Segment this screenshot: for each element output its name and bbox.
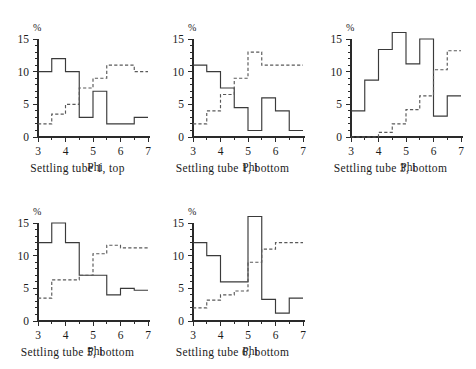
panel-caption: Settling tube 1, bottom [155,162,310,174]
y-tick-label: 5 [23,98,29,110]
x-tick-label: 3 [35,329,41,341]
panel-caption: Settling tube 3, bottom [313,162,468,174]
y-tick-label: 10 [173,66,185,78]
x-tick-label: 4 [376,145,382,157]
x-tick-label: 6 [273,329,279,341]
x-tick-label: 7 [145,329,151,341]
y-tick-label: 5 [178,282,184,294]
y-axis-unit-label: % [188,206,196,217]
chart-plot: 05101534567%Phi [313,2,468,162]
y-tick-label: 15 [331,33,343,45]
x-tick-label: 3 [35,145,41,157]
y-tick-label: 15 [18,33,30,45]
figure-multi-panel-histograms: 05101534567%PhiSettling tube 1, top05101… [0,0,476,369]
x-tick-label: 5 [245,329,251,341]
panel-caption: Settling tube 1, top [0,162,155,174]
x-tick-label: 3 [190,145,196,157]
x-tick-label: 4 [63,329,69,341]
y-axis-unit-label: % [346,22,354,33]
panel-caption: Settling tube 6, bottom [155,346,310,358]
chart-panel: 05101534567%PhiSettling tube 3, bottom [313,2,468,186]
y-tick-label: 15 [18,217,30,229]
y-tick-label: 15 [173,33,185,45]
y-axis-unit-label: % [33,206,41,217]
x-tick-label: 4 [218,145,224,157]
y-tick-label: 5 [178,98,184,110]
series-solid [38,59,148,124]
x-tick-label: 7 [458,145,464,157]
y-tick-label: 0 [178,131,184,143]
y-tick-label: 5 [23,282,29,294]
chart-panel: 05101534567%PhiSettling tube 1, top [0,2,155,186]
chart-panel: 05101534567%PhiSettling tube 6, bottom [155,186,310,369]
y-tick-label: 15 [173,217,185,229]
x-tick-label: 5 [90,145,96,157]
chart-plot: 05101534567%Phi [0,186,155,346]
x-tick-label: 6 [273,145,279,157]
x-tick-label: 5 [90,329,96,341]
axes: 05101534567 [331,33,465,157]
panel-caption: Settling tube 5, bottom [0,346,155,358]
y-tick-label: 0 [336,131,342,143]
x-tick-label: 7 [300,145,306,157]
y-tick-label: 5 [336,98,342,110]
y-tick-label: 10 [331,66,343,78]
x-tick-label: 7 [300,329,306,341]
chart-plot: 05101534567%Phi [155,186,310,346]
x-tick-label: 5 [245,145,251,157]
x-tick-label: 5 [403,145,409,157]
x-tick-label: 4 [218,329,224,341]
chart-panel: 05101534567%PhiSettling tube 1, bottom [155,2,310,186]
y-tick-label: 10 [18,66,30,78]
y-tick-label: 10 [18,250,30,262]
x-tick-label: 6 [118,145,124,157]
x-tick-label: 3 [348,145,354,157]
y-tick-label: 0 [23,315,29,327]
chart-plot: 05101534567%Phi [0,2,155,162]
x-tick-label: 6 [118,329,124,341]
y-axis-unit-label: % [33,22,41,33]
x-tick-label: 6 [431,145,437,157]
series-solid [351,32,461,116]
y-axis-unit-label: % [188,22,196,33]
chart-plot: 05101534567%Phi [155,2,310,162]
axes: 05101534567 [173,217,307,341]
y-tick-label: 0 [178,315,184,327]
axes: 05101534567 [18,33,152,157]
y-tick-label: 0 [23,131,29,143]
series-dashed [38,245,148,298]
y-tick-label: 10 [173,250,185,262]
x-tick-label: 3 [190,329,196,341]
x-tick-label: 7 [145,145,151,157]
axes: 05101534567 [18,217,152,341]
x-tick-label: 4 [63,145,69,157]
chart-panel: 05101534567%PhiSettling tube 5, bottom [0,186,155,369]
axes: 05101534567 [173,33,307,157]
